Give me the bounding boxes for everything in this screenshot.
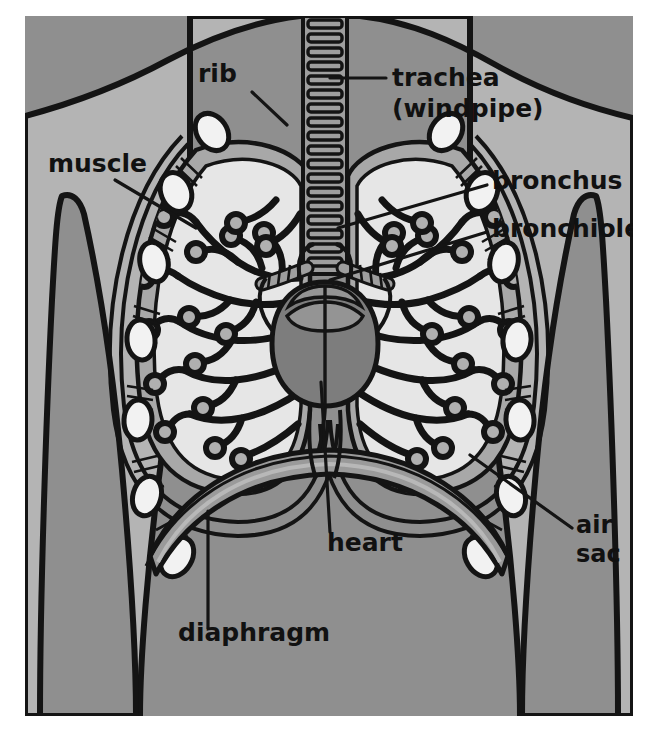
label-muscle: muscle (48, 149, 147, 178)
trachea (303, 16, 347, 274)
label-bronchiole: bronchiole (492, 214, 641, 243)
label-rib: rib (198, 59, 237, 88)
label-air: air (576, 511, 612, 539)
label-trachea: trachea (392, 63, 500, 92)
label-windpipe: (windpipe) (392, 94, 544, 123)
label-heart: heart (327, 528, 403, 557)
label-bronchus: bronchus (492, 166, 623, 195)
label-sac: sac (576, 540, 621, 568)
illustration-plate: ribtrachea(windpipe)musclebronchusbronch… (25, 16, 641, 716)
label-diaphragm: diaphragm (178, 618, 330, 647)
anatomy-diagram-canvas: ribtrachea(windpipe)musclebronchusbronch… (0, 0, 658, 744)
diagram-figure: ribtrachea(windpipe)musclebronchusbronch… (0, 0, 658, 744)
